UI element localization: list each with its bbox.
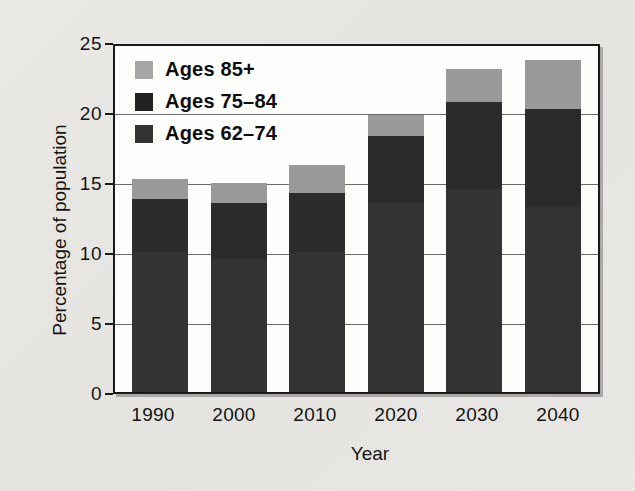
bar-2000-seg-ages-85-plus: [211, 183, 267, 203]
y-tick-mark-10: [105, 253, 113, 255]
bar-2020-seg-ages-75-84: [368, 136, 424, 203]
bar-2030-seg-ages-62-74: [446, 189, 502, 392]
bar-2000-seg-ages-75-84: [211, 203, 267, 259]
y-tick-label-25: 25: [62, 33, 102, 55]
chart-legend: Ages 85+ Ages 75–84 Ages 62–74: [135, 58, 277, 145]
x-tick-label-2010: 2010: [275, 404, 355, 426]
x-axis-title-wrap: Year: [0, 443, 635, 465]
x-tick-label-2040: 2040: [518, 404, 598, 426]
y-axis-title: Percentage of population: [49, 80, 71, 380]
bar-2020-seg-ages-62-74: [368, 203, 424, 392]
y-tick-mark-15: [105, 183, 113, 185]
legend-swatch-ages-62-74: [135, 125, 153, 143]
legend-item-ages-85-plus[interactable]: Ages 85+: [135, 58, 277, 81]
x-axis-title: Year: [246, 443, 389, 465]
bar-2010-seg-ages-62-74: [289, 252, 345, 392]
x-tick-label-2020: 2020: [356, 404, 436, 426]
legend-label-ages-85-plus: Ages 85+: [165, 58, 255, 81]
chart-figure: 0 5 10 15 20 25: [0, 0, 635, 491]
bar-2000-seg-ages-62-74: [211, 259, 267, 392]
y-tick-mark-0: [105, 393, 113, 395]
y-tick-mark-20: [105, 113, 113, 115]
x-tick-label-2000: 2000: [194, 404, 274, 426]
legend-item-ages-75-84[interactable]: Ages 75–84: [135, 90, 277, 113]
bar-2010-seg-ages-85-plus: [289, 165, 345, 193]
bar-2030-seg-ages-75-84: [446, 102, 502, 189]
bar-2040[interactable]: [525, 46, 581, 392]
legend-swatch-ages-85-plus: [135, 61, 153, 79]
bar-2020-seg-ages-85-plus: [368, 115, 424, 136]
bar-2030[interactable]: [446, 46, 502, 392]
y-tick-mark-5: [105, 323, 113, 325]
bar-1990-seg-ages-62-74: [132, 252, 188, 392]
legend-label-ages-62-74: Ages 62–74: [165, 122, 277, 145]
bar-2030-seg-ages-85-plus: [446, 69, 502, 103]
legend-item-ages-62-74[interactable]: Ages 62–74: [135, 122, 277, 145]
legend-label-ages-75-84: Ages 75–84: [165, 90, 277, 113]
bar-2010[interactable]: [289, 46, 345, 392]
bar-2040-seg-ages-85-plus: [525, 60, 581, 109]
x-tick-label-2030: 2030: [437, 404, 517, 426]
bar-1990-seg-ages-75-84: [132, 199, 188, 252]
y-tick-mark-25: [105, 43, 113, 45]
plot-area: Ages 85+ Ages 75–84 Ages 62–74: [113, 44, 600, 394]
bar-2020[interactable]: [368, 46, 424, 392]
x-tick-label-1990: 1990: [113, 404, 193, 426]
bar-1990-seg-ages-85-plus: [132, 179, 188, 199]
legend-swatch-ages-75-84: [135, 93, 153, 111]
bar-2040-seg-ages-62-74: [525, 207, 581, 392]
y-tick-label-0: 0: [62, 383, 102, 405]
bar-2040-seg-ages-75-84: [525, 109, 581, 207]
bar-2010-seg-ages-75-84: [289, 193, 345, 252]
